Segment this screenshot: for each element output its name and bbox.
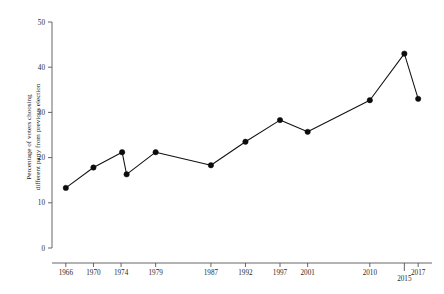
data-point [91,165,96,170]
y-axis-title-line-1: Percentage of voters choosing [25,94,33,180]
x-tick-label: 1992 [238,269,253,277]
data-point [402,51,407,56]
x-tick-label: 1970 [86,269,101,277]
y-tick-label: 50 [38,19,46,27]
x-tick-label: 2001 [300,269,315,277]
data-series-group [63,51,421,191]
data-point [63,185,68,190]
x-tick-label: 2017 [411,269,426,277]
series-line [66,54,418,188]
data-point [153,149,158,154]
data-point [208,163,213,168]
x-tick-label: 1979 [148,269,163,277]
x-axis-ticks: 1966197019741979198719921997200120102015… [59,263,426,283]
data-point [277,117,282,122]
data-point [305,129,310,134]
data-point [124,172,129,177]
data-point [119,149,124,154]
y-axis-title-line-2: different party from previous election [34,83,42,190]
data-point [243,139,248,144]
data-point [415,96,420,101]
x-tick-label: 1966 [59,269,74,277]
data-point [367,98,372,103]
x-tick-label: 2010 [363,269,378,277]
figure-container: 01020304050 1966197019741979198719921997… [0,0,444,294]
x-axis-group: 1966197019741979198719921997200120102015… [52,263,432,283]
y-tick-label: 40 [38,64,46,72]
x-tick-label: 2015 [397,275,412,283]
x-tick-label: 1987 [204,269,219,277]
series-markers [63,51,421,191]
line-chart: 01020304050 1966197019741979198719921997… [0,0,444,294]
y-axis-title: Percentage of voters choosing different … [25,83,42,190]
y-tick-label: 0 [41,245,45,253]
y-tick-label: 10 [38,199,46,207]
x-tick-label: 1974 [114,269,129,277]
x-tick-label: 1997 [273,269,288,277]
